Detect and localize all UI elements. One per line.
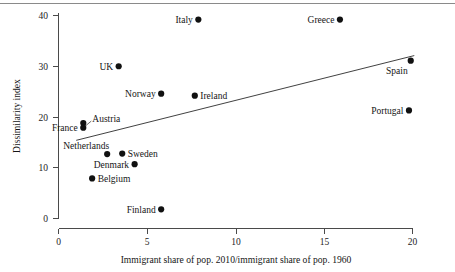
data-point xyxy=(89,175,95,181)
y-tick-label-10: 10 xyxy=(39,163,49,173)
data-point-label: Spain xyxy=(386,66,408,76)
data-point-label: Norway xyxy=(125,89,156,99)
x-tick-label-0: 0 xyxy=(56,237,61,247)
data-point-label: France xyxy=(52,123,78,133)
data-points-group: ItalyGreeceUKSpainNorwayIrelandPortugalA… xyxy=(52,15,414,215)
data-point-label: Belgium xyxy=(98,174,131,184)
x-axis-title: Immigrant share of pop. 2010/immigrant s… xyxy=(121,254,352,265)
x-tick-label-10: 10 xyxy=(231,237,241,247)
data-point-label: Denmark xyxy=(94,160,130,170)
data-point xyxy=(80,125,86,131)
data-point xyxy=(116,63,122,69)
data-point-label: Portugal xyxy=(371,106,404,116)
y-tick-label-20: 20 xyxy=(39,113,49,123)
x-tick-label-20: 20 xyxy=(408,237,418,247)
scatter-plot: 40 30 20 10 0 0 5 10 15 20 Immigrant sha… xyxy=(0,0,455,272)
data-point xyxy=(132,161,138,167)
data-point-label: UK xyxy=(99,62,113,72)
data-point xyxy=(192,93,198,99)
data-point xyxy=(337,16,343,22)
y-tick-label-30: 30 xyxy=(39,62,49,72)
data-point-label: Sweden xyxy=(128,149,158,159)
y-axis-title: Dissimilarity index xyxy=(11,79,22,153)
data-point-label: Netherlands xyxy=(63,141,109,151)
data-point xyxy=(408,58,414,64)
data-point-label: Ireland xyxy=(200,91,227,101)
data-point xyxy=(195,16,201,22)
data-point-label: Greece xyxy=(308,15,335,25)
y-tick-label-0: 0 xyxy=(43,214,48,224)
x-tick-label-5: 5 xyxy=(145,237,150,247)
chart-svg: 40 30 20 10 0 0 5 10 15 20 Immigrant sha… xyxy=(0,0,455,272)
data-point xyxy=(119,150,125,156)
y-tick-label-40: 40 xyxy=(39,11,49,21)
figure-container: 40 30 20 10 0 0 5 10 15 20 Immigrant sha… xyxy=(0,0,455,272)
data-point-label: Italy xyxy=(175,15,193,25)
data-point xyxy=(158,91,164,97)
data-point xyxy=(158,206,164,212)
data-point-label: Austria xyxy=(92,114,121,124)
data-point xyxy=(406,107,412,113)
x-tick-label-15: 15 xyxy=(320,237,330,247)
data-point-label: Finland xyxy=(127,205,156,215)
data-point xyxy=(104,151,110,157)
